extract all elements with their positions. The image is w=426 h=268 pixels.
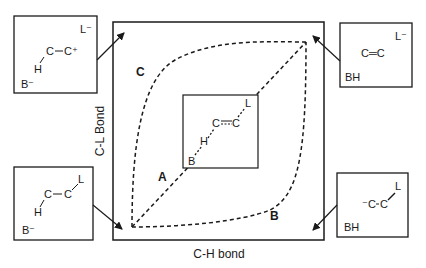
x-axis-label: C-H bond <box>193 247 244 261</box>
arrow-to-bottom-right <box>313 205 337 230</box>
hydrogen: H <box>34 206 42 218</box>
ts-base: B <box>188 155 195 167</box>
arrow-to-top-right <box>313 36 340 61</box>
arrow-to-top-left <box>97 33 124 60</box>
leaving-group: L <box>78 173 84 185</box>
carbanion: ⁻C <box>362 198 376 210</box>
ts-hydrogen: H <box>200 135 208 147</box>
base-anion: B⁻ <box>21 78 34 90</box>
more-o-ferrall-jencks-diagram: B H C C L C A B C-H bond C-L Bond L⁻ C C… <box>0 0 426 268</box>
ts-carbon-2: C <box>232 117 240 129</box>
carbon-1: C <box>44 188 52 200</box>
corner-box-top-left: L⁻ C C⁺ H B⁻ <box>14 16 97 93</box>
alkene: C═C <box>361 47 385 59</box>
y-axis-label: C-L Bond <box>93 106 107 156</box>
hydrogen: H <box>34 63 42 75</box>
ts-leaving-group: L <box>245 97 251 109</box>
leaving-group: L <box>395 180 401 192</box>
carbon-1: C <box>46 45 54 57</box>
corner-box-top-right: L⁻ C═C BH <box>340 23 412 87</box>
conjugate-acid: BH <box>344 221 359 233</box>
path-label-c: C <box>136 65 145 79</box>
leaving-group-anion: L⁻ <box>80 23 92 35</box>
base-anion: B⁻ <box>22 224 35 236</box>
leaving-group-anion: L⁻ <box>395 30 407 42</box>
corner-box-bottom-left: C C L H B⁻ <box>14 167 93 240</box>
arrow-to-bottom-left <box>93 205 122 229</box>
carbocation: C⁺ <box>64 45 78 57</box>
conjugate-acid: BH <box>345 71 360 83</box>
corner-box-bottom-right: ⁻C C L BH <box>337 173 408 237</box>
carbon-2: C <box>64 188 72 200</box>
carbon-2: C <box>380 198 388 210</box>
ts-carbon-1: C <box>212 117 220 129</box>
path-label-b: B <box>270 209 279 223</box>
path-label-a: A <box>158 170 167 184</box>
